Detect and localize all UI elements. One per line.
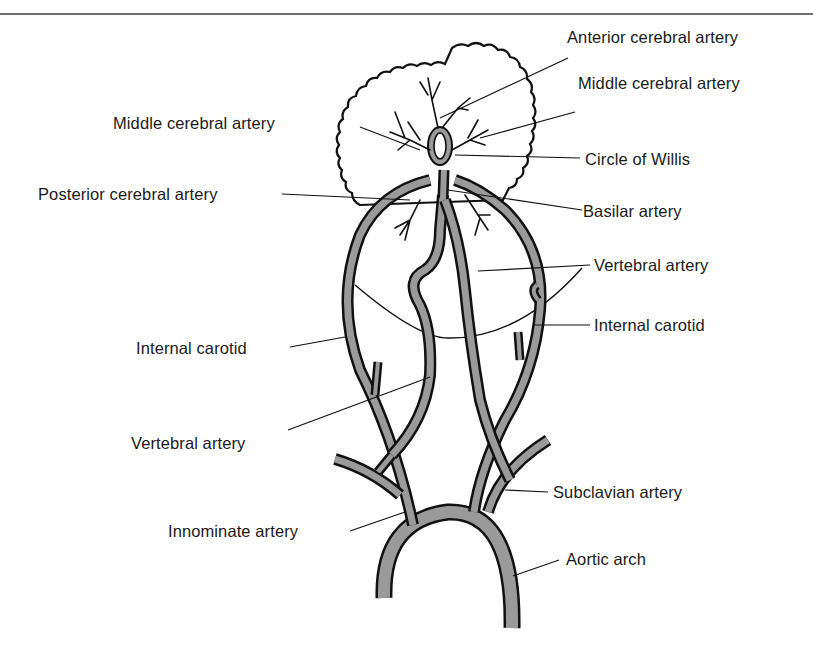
label-middle-cerebral-artery-right: Middle cerebral artery (578, 73, 740, 93)
label-middle-cerebral-artery-left: Middle cerebral artery (113, 113, 275, 133)
label-internal-carotid-left: Internal carotid (136, 338, 247, 358)
label-anterior-cerebral-artery: Anterior cerebral artery (567, 27, 738, 47)
label-internal-carotid-right: Internal carotid (594, 315, 705, 335)
label-aortic-arch: Aortic arch (566, 549, 646, 569)
label-basilar-artery: Basilar artery (583, 201, 682, 221)
label-posterior-cerebral-artery: Posterior cerebral artery (38, 184, 217, 204)
label-subclavian-artery: Subclavian artery (553, 482, 682, 502)
brain-outline (337, 43, 536, 205)
label-circle-of-willis: Circle of Willis (585, 149, 690, 169)
label-vertebral-artery-right: Vertebral artery (594, 255, 708, 275)
label-innominate-artery: Innominate artery (168, 521, 298, 541)
label-vertebral-artery-left: Vertebral artery (131, 433, 245, 453)
